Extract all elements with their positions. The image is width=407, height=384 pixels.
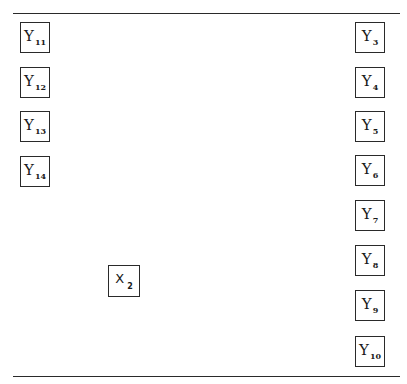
node-y9: Y9 bbox=[355, 290, 385, 321]
node-y7: Y7 bbox=[355, 200, 385, 231]
node-label: Y13 bbox=[24, 118, 46, 135]
node-y14: Y14 bbox=[20, 156, 50, 187]
node-label: Y6 bbox=[362, 162, 378, 179]
bottom-rule bbox=[13, 376, 400, 377]
node-label: Y3 bbox=[362, 29, 378, 46]
node-y3: Y3 bbox=[355, 22, 385, 53]
node-label: Y5 bbox=[362, 118, 378, 135]
node-y13: Y13 bbox=[20, 111, 50, 142]
node-label: Y9 bbox=[362, 297, 378, 314]
node-label: Y11 bbox=[24, 29, 46, 46]
node-label: X2 bbox=[115, 272, 132, 291]
node-label: Y8 bbox=[362, 252, 378, 269]
node-y4: Y4 bbox=[355, 67, 385, 98]
node-y12: Y12 bbox=[20, 67, 50, 98]
node-y5: Y5 bbox=[355, 111, 385, 142]
node-y11: Y11 bbox=[20, 22, 50, 53]
node-label: Y7 bbox=[362, 207, 378, 224]
node-y8: Y8 bbox=[355, 245, 385, 276]
node-label: Y4 bbox=[362, 74, 378, 91]
node-y10: Y10 bbox=[355, 336, 385, 367]
node-x2: X2 bbox=[108, 265, 140, 297]
node-label: Y10 bbox=[359, 343, 381, 360]
node-label: Y12 bbox=[24, 74, 46, 91]
top-rule bbox=[13, 13, 400, 14]
node-y6: Y6 bbox=[355, 155, 385, 186]
node-label: Y14 bbox=[24, 163, 46, 180]
